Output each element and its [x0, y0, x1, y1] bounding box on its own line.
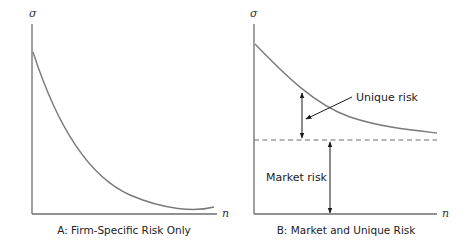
unique-risk-label: Unique risk	[356, 91, 419, 104]
panel-a-caption: A: Firm-Specific Risk Only	[57, 224, 191, 236]
panel-b-total-risk-curve	[255, 44, 437, 133]
panel-b-y-axis-label: σ	[250, 7, 258, 20]
panel-a: σ n A: Firm-Specific Risk Only	[29, 7, 229, 236]
panel-b-x-axis-label: n	[442, 207, 449, 220]
panel-a-y-axis-label: σ	[29, 7, 37, 20]
panel-a-risk-curve	[33, 52, 214, 209]
panel-a-x-axis-label: n	[222, 207, 229, 220]
market-risk-label: Market risk	[266, 171, 328, 184]
panel-b: σ n Unique risk Market risk B: Market an…	[250, 7, 449, 236]
panel-b-caption: B: Market and Unique Risk	[277, 224, 417, 236]
risk-diversification-figure: σ n A: Firm-Specific Risk Only σ n Uniqu…	[0, 0, 468, 241]
